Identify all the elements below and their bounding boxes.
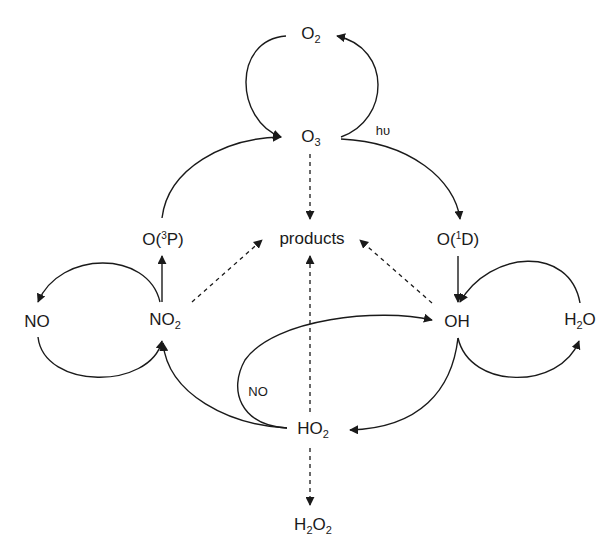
node-h2o2: H2O2	[294, 515, 332, 540]
node-o3p: O(3P)	[142, 226, 183, 250]
edge-label-hv: hυ	[376, 123, 390, 138]
node-o3: O3	[301, 127, 320, 152]
node-h2o: H2O	[564, 310, 596, 335]
node-oh: OH	[444, 312, 470, 332]
edge-o3-to-o2	[337, 36, 378, 137]
edge-o3-to-o1d	[341, 139, 460, 219]
edge-label-no: NO	[248, 384, 268, 399]
edge-no2-to-products	[192, 240, 262, 302]
node-products: products	[279, 229, 344, 249]
node-o2: O2	[301, 24, 320, 49]
node-o1d: O(1D)	[437, 226, 479, 250]
edge-o3p-to-o3	[162, 137, 281, 218]
node-no2: NO2	[149, 310, 181, 335]
edge-oh-to-h2o	[458, 338, 579, 377]
edge-oh-to-ho2	[350, 338, 458, 430]
edge-ho2-to-no2	[163, 343, 287, 428]
edge-no-to-no2	[38, 337, 162, 377]
edge-oh-to-products	[360, 240, 432, 303]
edge-ho2-to-oh	[238, 315, 432, 428]
diagram-canvas	[0, 0, 616, 558]
node-ho2: HO2	[297, 419, 329, 444]
node-no: NO	[24, 312, 50, 332]
edge-h2o-to-oh	[460, 261, 580, 303]
edge-o2-to-o3	[246, 36, 286, 137]
edge-no2-to-no	[38, 263, 160, 302]
